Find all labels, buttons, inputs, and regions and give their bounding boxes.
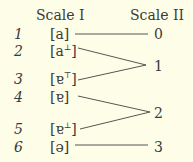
mapping-lines: [0, 0, 193, 162]
line-4-to-2: [78, 96, 150, 112]
line-5-to-2: [80, 112, 150, 129]
line-2-to-1: [78, 48, 146, 65]
line-3-to-1: [78, 65, 146, 80]
